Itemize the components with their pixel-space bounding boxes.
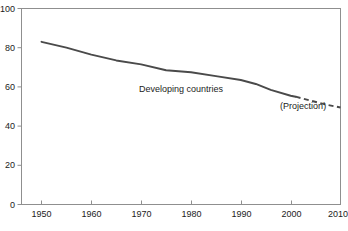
- xtick-label-1980: 1980: [181, 209, 201, 219]
- ytick-label-20: 20: [5, 160, 15, 170]
- xtick-label-1960: 1960: [81, 209, 101, 219]
- ytick-label-80: 80: [5, 43, 15, 53]
- ytick-label-0: 0: [10, 200, 15, 210]
- chart-canvas: 0 20 40 60 80 100 1950 1960 1970 1980 19…: [0, 0, 348, 231]
- annotation-developing-countries: Developing countries: [139, 84, 224, 94]
- ytick-label-100: 100: [0, 4, 15, 14]
- ytick-label-60: 60: [5, 82, 15, 92]
- xtick-label-1990: 1990: [231, 209, 251, 219]
- xtick-label-2000: 2000: [281, 209, 301, 219]
- chart-figure: 0 20 40 60 80 100 1950 1960 1970 1980 19…: [0, 0, 348, 231]
- xtick-label-2010: 2010: [328, 209, 348, 219]
- xtick-label-1970: 1970: [131, 209, 151, 219]
- ytick-label-40: 40: [5, 121, 15, 131]
- annotation-projection: (Projection): [280, 101, 326, 111]
- xtick-label-1950: 1950: [31, 209, 51, 219]
